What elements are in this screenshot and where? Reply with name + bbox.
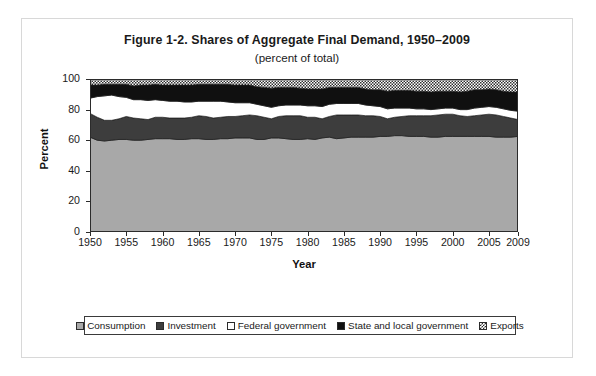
- legend-label: Exports: [490, 320, 523, 331]
- x-tick-label: 1975: [251, 236, 291, 248]
- x-tick-label: 1965: [179, 236, 219, 248]
- x-tick-mark: [126, 232, 127, 236]
- y-axis-label: Percent: [38, 99, 50, 199]
- legend-swatch-light-gray-fill: [76, 322, 84, 330]
- x-tick-label: 2000: [433, 236, 473, 248]
- legend-item-federal-government[interactable]: Federal government: [227, 320, 326, 331]
- x-tick-label: 2009: [498, 236, 538, 248]
- legend-swatch-white-fill: [227, 322, 235, 330]
- x-tick-label: 1955: [106, 236, 146, 248]
- legend-label: Federal government: [238, 320, 326, 331]
- x-tick-label: 1960: [143, 236, 183, 248]
- x-tick-label: 1990: [360, 236, 400, 248]
- x-tick-mark: [344, 232, 345, 236]
- x-tick-label: 1980: [288, 236, 328, 248]
- x-tick-mark: [235, 232, 236, 236]
- y-tick-label: 0: [44, 226, 80, 236]
- legend-item-state-and-local-government[interactable]: State and local government: [337, 320, 468, 331]
- x-tick-mark: [518, 232, 519, 236]
- x-tick-mark: [489, 232, 490, 236]
- figure-page: Figure 1-2. Shares of Aggregate Final De…: [0, 0, 596, 376]
- y-tick-label: 100: [44, 73, 80, 83]
- figure-title: Figure 1-2. Shares of Aggregate Final De…: [21, 33, 573, 47]
- x-tick-label: 1985: [324, 236, 364, 248]
- legend-swatch-black-fill: [337, 322, 345, 330]
- legend-swatch-dark-gray-fill: [156, 322, 164, 330]
- area-series-consumption: [90, 136, 518, 232]
- plot-area: [90, 79, 518, 232]
- x-tick-mark: [416, 232, 417, 236]
- y-tick-label: 80: [44, 104, 80, 114]
- y-tick-label: 60: [44, 134, 80, 144]
- x-axis-label: Year: [90, 258, 518, 270]
- legend-label: Consumption: [87, 320, 145, 331]
- x-tick-mark: [308, 232, 309, 236]
- legend-swatch-checkered-fill: [479, 322, 487, 330]
- chart-legend: ConsumptionInvestmentFederal governmentS…: [84, 316, 516, 335]
- y-tick-label: 20: [44, 195, 80, 205]
- x-tick-mark: [90, 232, 91, 236]
- x-tick-mark: [271, 232, 272, 236]
- legend-label: State and local government: [348, 320, 468, 331]
- x-tick-mark: [163, 232, 164, 236]
- stacked-area-chart: [90, 79, 518, 232]
- x-tick-mark: [199, 232, 200, 236]
- legend-item-exports[interactable]: Exports: [479, 320, 523, 331]
- x-tick-mark: [453, 232, 454, 236]
- x-tick-label: 1950: [70, 236, 110, 248]
- x-tick-mark: [380, 232, 381, 236]
- figure-subtitle: (percent of total): [21, 51, 573, 64]
- x-tick-label: 1995: [396, 236, 436, 248]
- legend-item-consumption[interactable]: Consumption: [76, 320, 145, 331]
- x-tick-label: 1970: [215, 236, 255, 248]
- legend-label: Investment: [167, 320, 215, 331]
- legend-item-investment[interactable]: Investment: [156, 320, 215, 331]
- y-tick-label: 40: [44, 165, 80, 175]
